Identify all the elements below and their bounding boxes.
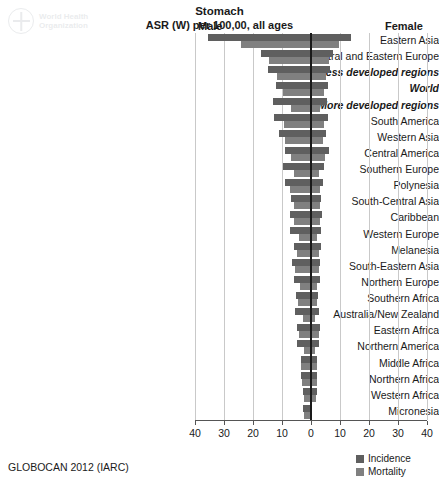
bar-female-incidence xyxy=(311,130,326,137)
bar-male-mortality xyxy=(295,266,311,273)
bar-female-mortality xyxy=(311,57,329,64)
bar-male-incidence xyxy=(283,163,311,170)
bar-male-mortality xyxy=(299,234,311,241)
x-tick-mark xyxy=(253,421,254,425)
legend-item: Incidence xyxy=(356,452,411,465)
bar-female-mortality xyxy=(311,121,324,128)
bar-female-mortality xyxy=(311,218,320,225)
bar-male-mortality xyxy=(297,250,312,257)
gridline xyxy=(369,33,370,420)
bar-male-mortality xyxy=(290,186,311,193)
gridline xyxy=(427,33,428,420)
globocan-chart-figure: World Health Organization Stomach ASR (W… xyxy=(0,0,439,493)
bar-female-mortality xyxy=(311,395,316,402)
bar-male-mortality xyxy=(283,89,311,96)
bar-female-incidence xyxy=(311,372,317,379)
legend-item: Mortality xyxy=(356,465,411,478)
bar-female-incidence xyxy=(311,163,324,170)
bar-male-mortality xyxy=(284,121,311,128)
bar-male-incidence xyxy=(294,243,311,250)
bar-female-incidence xyxy=(311,50,333,57)
bar-male-incidence xyxy=(297,324,311,331)
bar-male-incidence xyxy=(279,130,311,137)
x-tick-label: 30 xyxy=(218,427,230,439)
bar-female-mortality xyxy=(311,234,317,241)
gridline xyxy=(195,33,196,420)
bar-female-mortality xyxy=(311,331,319,338)
bar-female-incidence xyxy=(311,292,318,299)
bar-female-mortality xyxy=(311,266,319,273)
bar-male-incidence xyxy=(290,211,311,218)
bar-female-mortality xyxy=(311,105,320,112)
bar-male-incidence xyxy=(292,259,311,266)
bar-male-incidence xyxy=(291,195,311,202)
gridline xyxy=(253,33,254,420)
bar-male-incidence xyxy=(276,82,311,89)
x-tick-mark xyxy=(398,421,399,425)
x-tick-mark xyxy=(369,421,370,425)
bar-female-incidence xyxy=(311,227,321,234)
bar-male-mortality xyxy=(291,154,311,161)
gridline xyxy=(224,33,225,420)
x-tick-mark xyxy=(311,421,312,425)
bar-female-incidence xyxy=(311,34,351,41)
bar-male-mortality xyxy=(294,202,311,209)
bar-male-mortality xyxy=(285,137,311,144)
bar-female-mortality xyxy=(311,202,320,209)
bar-female-mortality xyxy=(311,73,326,80)
gridline xyxy=(398,33,399,420)
bar-male-mortality xyxy=(298,299,311,306)
x-tick-label: 40 xyxy=(189,427,201,439)
source-caption: GLOBOCAN 2012 (IARC) xyxy=(8,461,129,473)
bar-female-mortality xyxy=(311,186,320,193)
legend-swatch-icon xyxy=(356,455,364,463)
plot-area xyxy=(195,33,427,420)
bar-female-mortality xyxy=(311,89,324,96)
bar-male-mortality xyxy=(269,57,311,64)
bar-female-incidence xyxy=(311,324,320,331)
bar-female-incidence xyxy=(311,388,317,395)
x-tick-mark xyxy=(195,421,196,425)
bar-female-mortality xyxy=(311,379,317,386)
bar-female-incidence xyxy=(311,243,321,250)
gridline xyxy=(340,33,341,420)
x-tick-label: 20 xyxy=(363,427,375,439)
bar-female-incidence xyxy=(311,179,323,186)
bar-female-incidence xyxy=(311,114,328,121)
bar-male-incidence xyxy=(261,50,311,57)
legend-label: Incidence xyxy=(368,453,411,464)
x-tick-label: 10 xyxy=(276,427,288,439)
x-tick-mark xyxy=(224,421,225,425)
bar-female-mortality xyxy=(311,154,325,161)
bar-female-incidence xyxy=(311,340,319,347)
bar-male-incidence xyxy=(208,34,311,41)
legend-label: Mortality xyxy=(368,466,406,477)
bar-female-incidence xyxy=(311,82,328,89)
bar-male-incidence xyxy=(295,308,311,315)
bar-female-mortality xyxy=(311,137,323,144)
bar-male-mortality xyxy=(294,218,311,225)
bar-female-mortality xyxy=(311,363,317,370)
x-tick-mark xyxy=(427,421,428,425)
bar-male-incidence xyxy=(268,66,312,73)
zero-axis-line xyxy=(310,33,311,420)
bar-female-incidence xyxy=(311,259,320,266)
bar-male-mortality xyxy=(277,73,311,80)
bar-female-incidence xyxy=(311,195,321,202)
bar-male-incidence xyxy=(273,98,311,105)
x-tick-label: 30 xyxy=(392,427,404,439)
bar-female-mortality xyxy=(311,41,339,48)
bar-female-incidence xyxy=(311,276,320,283)
bar-male-incidence xyxy=(290,227,311,234)
x-tick-label: 10 xyxy=(334,427,346,439)
bar-female-incidence xyxy=(311,211,322,218)
male-side-label: Male xyxy=(198,20,222,32)
bar-female-mortality xyxy=(311,299,317,306)
bar-female-mortality xyxy=(311,170,319,177)
x-tick-label: 0 xyxy=(308,427,314,439)
bar-male-mortality xyxy=(299,331,311,338)
x-tick-mark xyxy=(340,421,341,425)
bar-male-incidence xyxy=(285,179,311,186)
x-tick-label: 40 xyxy=(421,427,433,439)
bar-male-mortality xyxy=(294,170,311,177)
